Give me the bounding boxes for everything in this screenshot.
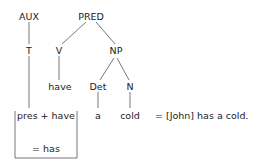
edge-pred-np — [96, 22, 115, 44]
edge-np-det — [100, 58, 114, 80]
node-np: NP — [110, 45, 123, 56]
node-aux: AUX — [19, 11, 39, 22]
node-n: N — [126, 81, 133, 92]
edge-pred-v — [62, 22, 86, 44]
gloss-text: = [John] has a cold. — [155, 110, 248, 121]
node-a: a — [95, 110, 101, 121]
node-v: V — [56, 45, 63, 56]
node-cold: cold — [120, 110, 140, 121]
node-has: = has — [32, 143, 60, 154]
node-have: have — [48, 81, 71, 92]
node-t: T — [26, 45, 32, 56]
node-det: Det — [90, 81, 107, 92]
node-pres-have: pres + have — [17, 110, 75, 121]
node-pred: PRED — [78, 11, 104, 22]
edge-np-n — [117, 58, 129, 80]
